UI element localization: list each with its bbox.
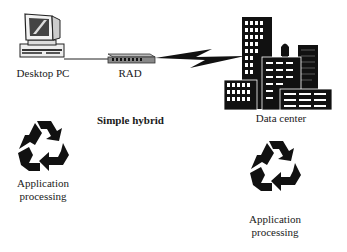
rad-label: RAD — [110, 67, 150, 80]
app-processing-left-line1: Application — [5, 177, 81, 190]
desktop-computer-icon — [20, 14, 64, 57]
recycle-arrows-icon-right — [250, 141, 301, 191]
data-center-label: Data center — [246, 112, 316, 125]
app-processing-left-label: Application processing — [5, 177, 81, 203]
network-device-icon — [108, 54, 155, 63]
desktop-pc-label: Desktop PC — [10, 67, 76, 80]
app-processing-left-line2: processing — [5, 190, 81, 203]
app-processing-right-line2: processing — [237, 226, 313, 239]
city-buildings-icon — [224, 17, 332, 110]
app-processing-right-label: Application processing — [237, 213, 313, 239]
recycle-arrows-icon-left — [18, 121, 69, 171]
wireless-lightning-icon — [155, 49, 245, 68]
app-processing-right-line1: Application — [237, 213, 313, 226]
diagram-title: Simple hybrid — [97, 114, 164, 126]
